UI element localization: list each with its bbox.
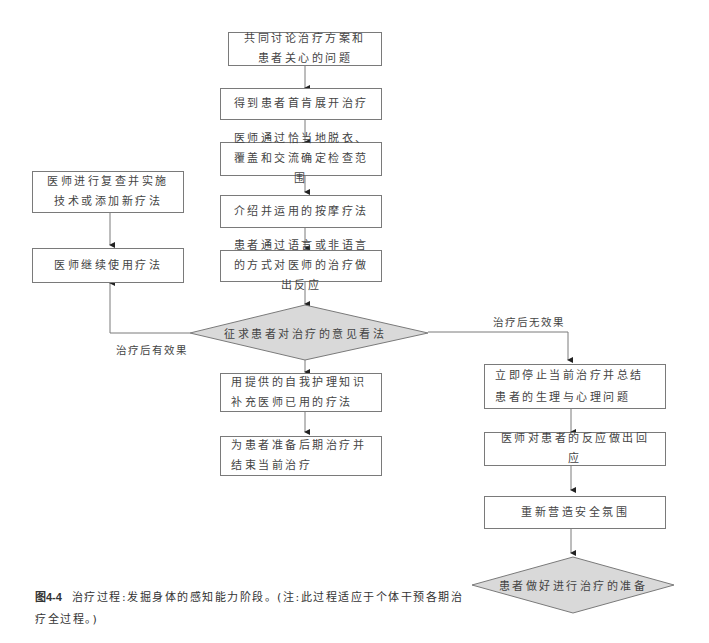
step-prepare-followup: 为患者准备后期治疗并结束当前治疗 (220, 436, 382, 476)
step-text: 重新营造安全氛围 (521, 503, 629, 523)
step-continue-therapy: 医师继续使用疗法 (32, 248, 184, 283)
step-stop-treatment: 立即停止当前治疗并总结患者的生理与心理问题 (484, 364, 666, 409)
step-text: 得到患者首肯展开治疗 (234, 94, 369, 114)
end-decision-text: 患者做好进行治疗的准备 (499, 577, 648, 593)
step-determine-scope: 医师通过恰当地脱衣、覆盖和交流确定检查范围 (220, 142, 382, 176)
step-text: 医师继续使用疗法 (54, 256, 162, 276)
step-text: 介绍并运用的按摩疗法 (234, 202, 369, 222)
step-text: 为患者准备后期治疗并结束当前治疗 (231, 436, 371, 476)
label-not-effective: 治疗后无效果 (493, 314, 565, 329)
step-text: 共同讨论治疗方案和患者关心的问题 (239, 29, 371, 69)
step-respond-to-patient: 医师对患者的反应做出回应 (484, 432, 666, 466)
caption-text: 治疗过程:发掘身体的感知能力阶段。(注:此过程适应于个体干预各期治疗全过程。) (35, 591, 463, 626)
step-text: 医师通过恰当地脱衣、覆盖和交流确定检查范围 (231, 129, 371, 189)
step-review-add-therapy: 医师进行复查并实施技术或添加新疗法 (32, 171, 184, 213)
figure-caption: 图4-4治疗过程:发掘身体的感知能力阶段。(注:此过程适应于个体干预各期治疗全过… (35, 586, 475, 631)
step-text: 医师进行复查并实施技术或添加新疗法 (43, 172, 173, 212)
label-effective: 治疗后有效果 (116, 342, 188, 357)
step-massage-therapy: 介绍并运用的按摩疗法 (220, 195, 382, 228)
step-text: 医师对患者的反应做出回应 (495, 429, 655, 469)
decision-text: 征求患者对治疗的意见看法 (224, 325, 386, 341)
step-text: 用提供的自我护理知识补充医师已用的疗法 (231, 373, 371, 413)
step-patient-response: 患者通过语言或非语言的方式对医师的治疗做出反应 (220, 250, 382, 282)
step-text: 立即停止当前治疗并总结患者的生理与心理问题 (495, 365, 655, 409)
step-self-care: 用提供的自我护理知识补充医师已用的疗法 (220, 373, 382, 412)
step-rebuild-safety: 重新营造安全氛围 (484, 496, 666, 529)
step-text: 患者通过语言或非语言的方式对医师的治疗做出反应 (231, 236, 371, 296)
step-get-consent: 得到患者首肯展开治疗 (220, 88, 382, 120)
step-discuss-plan: 共同讨论治疗方案和患者关心的问题 (228, 32, 382, 66)
figure-number: 图4-4 (35, 591, 62, 603)
